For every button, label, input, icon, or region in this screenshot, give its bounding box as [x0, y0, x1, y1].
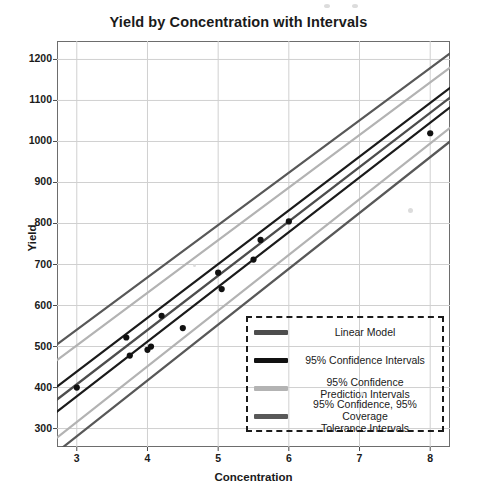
legend-label-line: 95% Confidence, 95% Coverage [292, 398, 438, 422]
legend-label-line: 95% Confidence Intervals [292, 354, 438, 366]
legend-swatch-line-icon [254, 330, 288, 335]
legend-item[interactable]: 95% ConfidencePrediction Intervals [248, 376, 442, 401]
legend-item[interactable]: 95% Confidence, 95% CoverageTolerance In… [248, 404, 442, 429]
scan-artifact [360, 392, 364, 396]
legend-swatch-line-icon [254, 358, 288, 363]
legend-swatch-line-icon [254, 414, 288, 419]
legend-label-line: Tolerance Intervals [292, 422, 438, 434]
legend-item[interactable]: Linear Model [248, 320, 442, 345]
scan-artifact [193, 264, 196, 267]
chart-legend: Linear Model95% Confidence Intervals95% … [246, 316, 444, 432]
chart-container: Yield by Concentration with Intervals Yi… [0, 0, 477, 493]
legend-swatch-line-icon [254, 386, 288, 391]
legend-item[interactable]: 95% Confidence Intervals [248, 348, 442, 373]
scan-artifact [324, 4, 330, 8]
legend-label: Linear Model [292, 326, 438, 338]
legend-label: 95% Confidence Intervals [292, 354, 438, 366]
scan-artifact [408, 208, 413, 213]
legend-label-line: 95% Confidence [292, 376, 438, 388]
legend-label: 95% Confidence, 95% CoverageTolerance In… [292, 398, 438, 434]
legend-label-line: Linear Model [292, 326, 438, 338]
legend-label: 95% ConfidencePrediction Intervals [292, 376, 438, 400]
scan-artifact [352, 4, 358, 8]
